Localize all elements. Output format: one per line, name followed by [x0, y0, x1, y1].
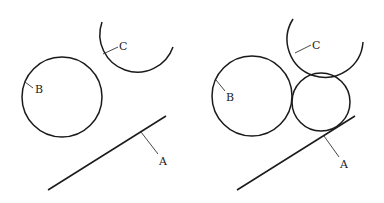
label-c-left: C [119, 40, 127, 53]
line-a-right [237, 116, 355, 190]
leader-b-left [25, 82, 33, 88]
line-a-left [48, 116, 166, 190]
leader-a-left [141, 132, 158, 154]
label-b-left: B [35, 83, 43, 96]
arc-c-right [287, 19, 363, 77]
leader-a-right [324, 136, 339, 157]
leader-b-right [216, 80, 225, 91]
tangent-circle-right [292, 73, 350, 131]
leader-c-left [103, 47, 118, 54]
label-a-right: A [339, 158, 349, 171]
label-b-right: B [226, 91, 234, 104]
leader-c-right [295, 45, 311, 53]
right-panel: A B C [212, 19, 363, 190]
label-c-right: C [312, 39, 320, 52]
left-panel: A B C [22, 22, 173, 190]
circle-b-left [22, 57, 102, 137]
arc-c-left [100, 22, 173, 72]
diagram-canvas: A B C A B C [0, 0, 384, 203]
circle-b-right [212, 56, 292, 136]
label-a-left: A [158, 155, 168, 168]
